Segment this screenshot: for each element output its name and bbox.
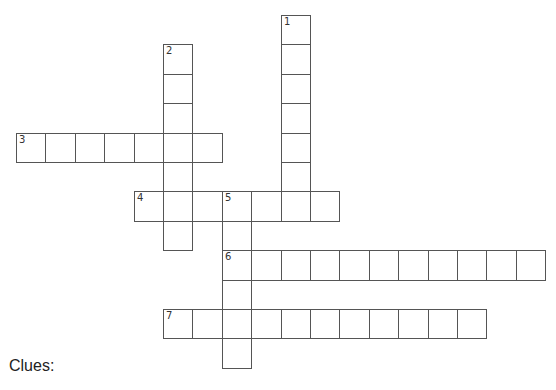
- crossword-cell[interactable]: [251, 309, 282, 339]
- crossword-cell[interactable]: [192, 309, 223, 339]
- crossword-cell[interactable]: [457, 309, 487, 339]
- clue-number: 2: [166, 46, 172, 56]
- crossword-cell[interactable]: [163, 162, 193, 192]
- crossword-cell[interactable]: [251, 191, 282, 222]
- crossword-cell[interactable]: 3: [16, 133, 46, 163]
- crossword-cell[interactable]: [192, 133, 223, 163]
- crossword-cell[interactable]: [281, 191, 311, 222]
- crossword-cell[interactable]: 2: [163, 44, 193, 75]
- crossword-cell[interactable]: [281, 133, 311, 163]
- clue-number: 7: [166, 311, 172, 321]
- crossword-cell[interactable]: [281, 44, 311, 75]
- crossword-cell[interactable]: 5: [222, 191, 252, 222]
- crossword-cell[interactable]: 7: [163, 309, 193, 339]
- crossword-cell[interactable]: [310, 250, 340, 281]
- clues-heading: Clues:: [9, 357, 54, 375]
- clue-number: 4: [137, 193, 143, 203]
- crossword-cell[interactable]: [398, 309, 429, 339]
- crossword-cell[interactable]: [398, 250, 429, 281]
- crossword-cell[interactable]: [281, 309, 311, 339]
- crossword-grid: 1234567: [0, 0, 556, 390]
- clue-number: 6: [225, 252, 231, 262]
- crossword-cell[interactable]: [310, 191, 340, 222]
- crossword-cell[interactable]: [281, 74, 311, 104]
- crossword-cell[interactable]: [163, 133, 193, 163]
- crossword-cell[interactable]: [251, 250, 282, 281]
- crossword-cell[interactable]: [163, 103, 193, 134]
- crossword-cell[interactable]: [163, 191, 193, 222]
- crossword-cell[interactable]: [516, 250, 546, 281]
- crossword-cell[interactable]: [222, 221, 252, 251]
- clue-number: 1: [284, 17, 290, 27]
- crossword-cell[interactable]: [310, 309, 340, 339]
- crossword-cell[interactable]: [163, 221, 193, 251]
- crossword-cell[interactable]: [281, 250, 311, 281]
- crossword-cell[interactable]: [104, 133, 135, 163]
- crossword-cell[interactable]: [281, 103, 311, 134]
- crossword-cell[interactable]: [428, 250, 458, 281]
- clue-number: 3: [19, 135, 25, 145]
- crossword-cell[interactable]: [369, 309, 399, 339]
- crossword-cell[interactable]: [222, 309, 252, 339]
- crossword-cell[interactable]: [163, 74, 193, 104]
- crossword-cell[interactable]: [457, 250, 487, 281]
- crossword-cell[interactable]: 4: [134, 191, 164, 222]
- crossword-cell[interactable]: [134, 133, 164, 163]
- crossword-cell[interactable]: [428, 309, 458, 339]
- crossword-cell[interactable]: 1: [281, 15, 311, 45]
- crossword-cell[interactable]: [222, 280, 252, 310]
- crossword-cell[interactable]: 6: [222, 250, 252, 281]
- crossword-cell[interactable]: [486, 250, 517, 281]
- clue-number: 5: [225, 193, 231, 203]
- crossword-cell[interactable]: [45, 133, 76, 163]
- crossword-cell[interactable]: [339, 250, 370, 281]
- crossword-cell[interactable]: [281, 162, 311, 192]
- crossword-cell[interactable]: [222, 338, 252, 369]
- crossword-cell[interactable]: [192, 191, 223, 222]
- crossword-cell[interactable]: [75, 133, 105, 163]
- crossword-cell[interactable]: [369, 250, 399, 281]
- crossword-cell[interactable]: [339, 309, 370, 339]
